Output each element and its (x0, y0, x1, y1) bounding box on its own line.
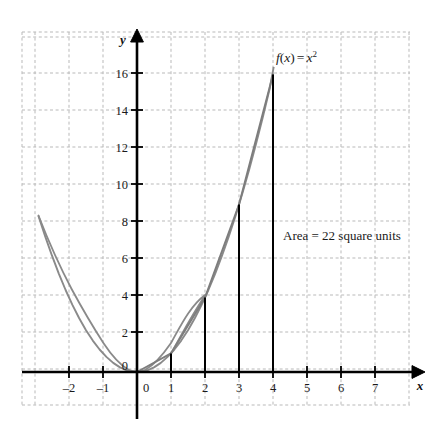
y-axis-label: y (118, 32, 126, 47)
function-label-close: ) (290, 50, 295, 65)
grid-lines (22, 32, 410, 405)
x-tick-label: –1 (96, 381, 110, 395)
math-plot: –2 –1 0 1 2 3 4 5 6 7 0 2 4 6 8 10 12 14… (0, 0, 438, 435)
area-annotation: Area = 22 square units (283, 228, 401, 243)
function-label: f(x)=x2 (276, 49, 317, 65)
y-tick-label: 14 (116, 104, 129, 118)
x-axis-label: x (416, 378, 424, 393)
y-tick-label: 10 (116, 178, 129, 192)
y-tick-label: 16 (116, 67, 129, 81)
x-tick-label: –2 (62, 381, 76, 395)
svg-text:f(x)=x2: f(x)=x2 (276, 49, 317, 65)
y-axis-arrowhead (131, 29, 144, 42)
axis-lines (22, 29, 425, 419)
y-tick-label: 6 (122, 252, 128, 266)
x-tick-label: 1 (168, 381, 174, 395)
y-tick-label: 4 (122, 289, 129, 303)
x-tick-label: 6 (338, 381, 344, 395)
y-tick-label: 2 (122, 326, 128, 340)
x-tick-label: 7 (372, 381, 378, 395)
x-axis-arrowhead (412, 366, 425, 379)
x-tick-label: 3 (236, 381, 242, 395)
x-tick-labels: –2 –1 0 1 2 3 4 5 6 7 (62, 381, 378, 395)
function-label-base: x (305, 50, 312, 65)
y-tick-labels: 0 2 4 6 8 10 12 14 16 (116, 67, 129, 373)
x-tick-label: 5 (304, 381, 310, 395)
function-label-equals: = (297, 50, 305, 65)
figure-canvas: –2 –1 0 1 2 3 4 5 6 7 0 2 4 6 8 10 12 14… (0, 0, 438, 435)
x-tick-label: 4 (270, 381, 277, 395)
y-tick-label: 12 (116, 141, 129, 155)
function-label-exponent: 2 (312, 49, 317, 59)
y-tick-label: 8 (122, 215, 128, 229)
x-tick-label-origin: 0 (143, 381, 149, 395)
y-tick-label-zero: 0 (122, 359, 128, 373)
function-label-var: x (283, 50, 290, 65)
x-tick-label: 2 (202, 381, 208, 395)
